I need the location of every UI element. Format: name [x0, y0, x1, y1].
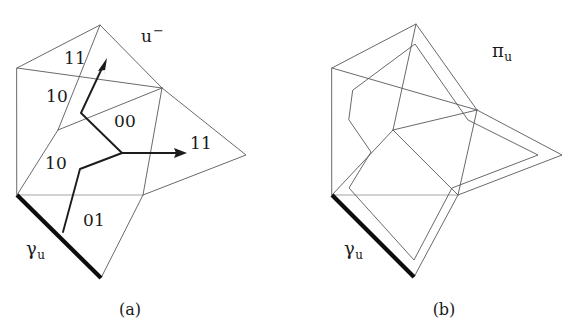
panel-a-label-11-right: 11	[190, 135, 212, 152]
panel-b-label-pi-subscript: u	[504, 50, 512, 64]
panel-a-label-gamma-base: γ	[26, 238, 37, 259]
panel-a-caption: (a)	[100, 300, 160, 319]
panel-a-label-10-upper: 10	[46, 88, 68, 105]
panel-a-edge-top-cross	[58, 25, 100, 130]
panel-a-label-u-minus: u−	[141, 24, 164, 45]
panel-a-label-11-top: 11	[64, 50, 86, 67]
panel-a-label-01-bottom: 01	[83, 212, 105, 229]
panel-a-edge-mid-lowmid	[143, 88, 162, 195]
panel-a-arrow-diagonal-shaft	[81, 66, 103, 113]
panel-a-gamma-edge	[17, 195, 101, 278]
panel-b-outline	[332, 24, 562, 277]
panel-a-label-10-lower: 10	[45, 155, 67, 172]
panel-b-label-pi-u: πu	[492, 42, 512, 63]
figure-linework	[0, 0, 576, 333]
panel-b-label-gamma-base: γ	[344, 238, 355, 259]
panel-b-edge-top-cross	[393, 24, 416, 130]
panel-b-label-gamma-subscript: u	[355, 248, 363, 262]
panel-a-label-gamma-subscript: u	[37, 248, 45, 262]
panel-a-gamma-edge-group	[17, 195, 101, 278]
panel-b-label-pi-base: π	[492, 40, 504, 61]
panel-a-walk	[63, 58, 187, 232]
panel-b-label-gamma-u: γu	[344, 240, 363, 261]
panel-a-label-u-superscript: −	[153, 23, 164, 38]
figure-container: 11 10 00 11 10 01 u− γu πu γu (a) (b)	[0, 0, 576, 333]
panel-b-mesh	[332, 24, 562, 277]
panel-a-edge-tl-mid	[17, 68, 162, 88]
panel-b-edge-cross-lowmid	[393, 130, 458, 195]
panel-a-edge-cross-mid	[58, 88, 162, 130]
panel-b-gamma-edge	[332, 195, 414, 277]
panel-b-edge-cross-mid	[393, 110, 477, 130]
panel-b-pi-outline	[349, 44, 538, 260]
panel-b-gamma-edge-group	[332, 195, 414, 277]
panel-a-label-gamma-u: γu	[26, 240, 45, 261]
panel-a-label-00-center: 00	[114, 113, 136, 130]
panel-b-caption: (b)	[414, 300, 474, 319]
panel-a-label-u-base: u	[141, 26, 152, 46]
panel-b-pi-outline-group	[349, 44, 538, 260]
